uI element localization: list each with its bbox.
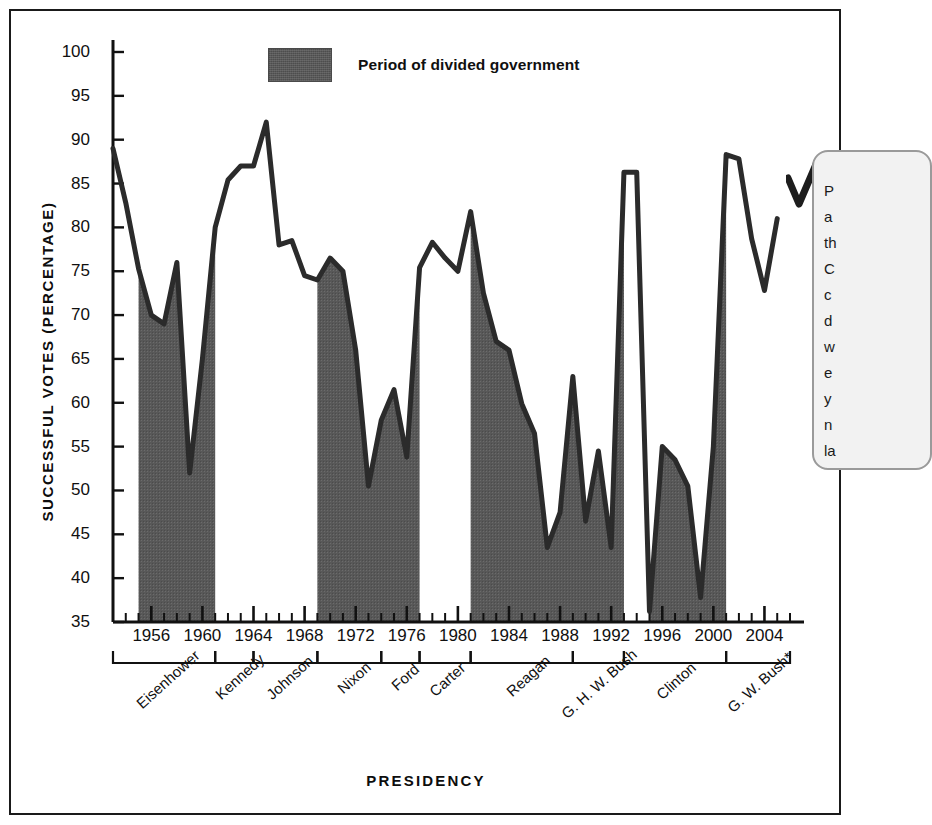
y-tick-label: 85 [50,175,90,192]
legend-label: Period of divided government [358,56,580,74]
annotation-callout: P a th C c d w e y n la [812,150,932,470]
presidency-labels: EisenhowerKennedyJohnsonNixonFordCarterR… [0,668,852,760]
y-tick-label: 75 [50,262,90,279]
x-tick-labels: 1956196019641968197219761980198419881992… [0,627,852,653]
y-tick-label: 65 [50,350,90,367]
y-tick-label: 60 [50,394,90,411]
y-tick-label: 50 [50,481,90,498]
y-tick-label: 40 [50,569,90,586]
x-axis-title: PRESIDENCY [0,772,852,789]
y-tick-label: 70 [50,306,90,323]
y-tick-label: 55 [50,438,90,455]
y-tick-label: 100 [50,43,90,60]
legend-swatch-divided-government [268,48,332,82]
annotation-callout-text: P a th C c d w e y n la [824,178,930,464]
y-tick-label: 95 [50,87,90,104]
legend: Period of divided government [268,48,580,82]
x-tick-label: 2004 [729,627,799,644]
y-tick-label: 80 [50,218,90,235]
y-tick-label: 90 [50,131,90,148]
y-tick-label: 45 [50,525,90,542]
